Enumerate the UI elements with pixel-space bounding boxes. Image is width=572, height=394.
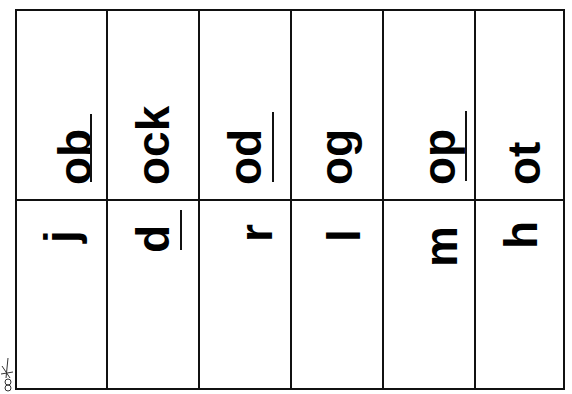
row-divider (15, 199, 565, 201)
underline (90, 114, 92, 182)
ending-card-ock: ock (130, 106, 176, 185)
onset-card-h: h (498, 221, 544, 249)
onset-card-l: l (321, 229, 367, 242)
underline (465, 111, 467, 181)
ending-card-od: od (222, 129, 268, 185)
underline (180, 210, 182, 250)
ending-card-og: og (313, 129, 359, 185)
onset-card-r: r (233, 224, 279, 242)
underline (272, 112, 274, 182)
onset-card-j: j (38, 230, 84, 243)
onset-card-m: m (418, 226, 464, 267)
scissors-icon (0, 356, 16, 392)
onset-card-d: d (130, 225, 176, 253)
ending-card-op: op (416, 129, 462, 185)
ending-card-ot: ot (501, 142, 547, 185)
